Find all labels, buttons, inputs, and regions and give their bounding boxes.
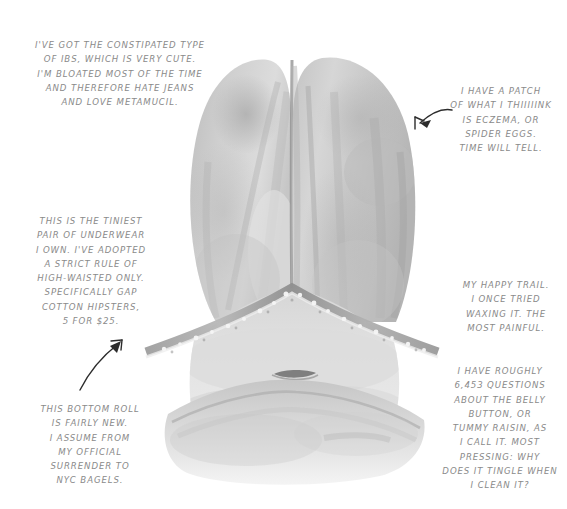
midline-crease [291,60,292,322]
annotation-belly-button: I HAVE ROUGHLY 6,453 QUESTIONS ABOUT THE… [436,364,564,493]
arrow-pointing-to-waistband [78,330,136,392]
annotation-bottom-roll: THIS BOTTOM ROLL IS FAIRLY NEW. I ASSUME… [14,402,166,488]
illustrated-annotated-belly-page: I'VE GOT THE CONSTIPATED TYPE OF IBS, WH… [0,0,567,509]
annotation-eczema: I HAVE A PATCH OF WHAT I THIIIIINK IS EC… [440,84,562,155]
annotation-happy-trail: MY HAPPY TRAIL. I ONCE TRIED WAXING IT. … [450,278,562,335]
arrow-pointing-to-skin-patch [406,104,454,138]
annotation-underwear: THIS IS THE TINIEST PAIR OF UNDERWEAR I … [16,214,166,328]
annotation-ibs: I'VE GOT THE CONSTIPATED TYPE OF IBS, WH… [22,38,218,109]
right-torso-lobe [293,57,416,328]
